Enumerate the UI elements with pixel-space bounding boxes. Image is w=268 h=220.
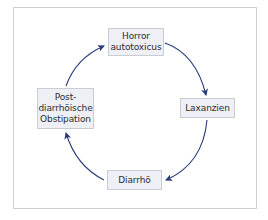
arrow-laxanzien-to-diarrhoe <box>166 120 207 180</box>
node-laxanzien: Laxanzien <box>180 98 235 118</box>
arrow-post-to-horror <box>66 46 104 86</box>
arrow-horror-to-laxanzien <box>165 43 206 95</box>
arrow-diarrhoe-to-post <box>66 133 104 180</box>
node-post-diarrhoeische-obstipation: Post- diarrhöische Obstipation <box>37 88 94 129</box>
node-horror-autotoxicus: Horror autotoxicus <box>108 28 164 56</box>
node-diarrhoe: Diarrhö <box>107 170 162 190</box>
